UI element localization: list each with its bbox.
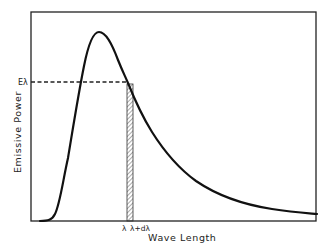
emissive-power-chart: Emissive Power Eλ λ λ+dλ Wave Length (0, 0, 327, 247)
lambda-label: λ (122, 224, 127, 233)
plot-frame (31, 12, 316, 221)
hatched-strip (127, 84, 133, 221)
e-lambda-label: Eλ (18, 78, 28, 87)
emissive-power-curve (40, 32, 317, 221)
x-axis-label: Wave Length (148, 232, 216, 243)
y-axis-label: Emissive Power (12, 91, 23, 173)
